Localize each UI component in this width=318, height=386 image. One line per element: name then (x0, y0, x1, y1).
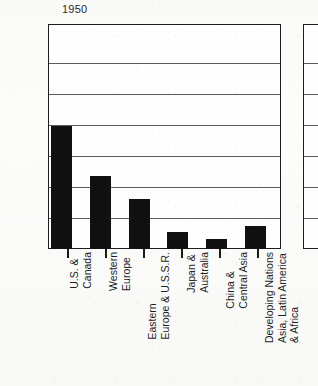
next-gridline-4 (304, 156, 318, 157)
gridline-800 (49, 125, 280, 126)
x-axis-label-5: China &Central Asia (224, 252, 249, 309)
gridlines (49, 25, 280, 248)
gridline-200 (49, 218, 280, 219)
next-gridline-6 (304, 218, 318, 219)
x-axis-label-4: Japan &Australia (185, 252, 210, 293)
gridline-1000 (49, 94, 280, 95)
next-gridline-5 (304, 187, 318, 188)
x-axis-labels: U.S. &CanadaWesternEuropeEasternEurope &… (48, 252, 281, 386)
next-gridline-3 (304, 125, 318, 126)
next-gridline-1 (304, 63, 318, 64)
gridline-400 (49, 187, 280, 188)
x-axis-label-3: EasternEurope & U.S.S.R. (146, 252, 171, 340)
chart-title: 1950 (62, 3, 87, 15)
x-axis-label-6: Developing NationsAsia, Latin America& A… (263, 252, 301, 343)
chart-panel-1950: 1950 1200 1000 800 600 400 200 U.S. &Can… (0, 0, 288, 386)
chart-panel-next-clipped (303, 24, 318, 249)
x-axis-label-1: U.S. &Canada (68, 252, 93, 289)
plot-area (48, 24, 281, 249)
gridline-600 (49, 156, 280, 157)
x-axis-label-2: WesternEurope (107, 252, 132, 291)
gridline-1200 (49, 63, 280, 64)
next-gridline-2 (304, 94, 318, 95)
